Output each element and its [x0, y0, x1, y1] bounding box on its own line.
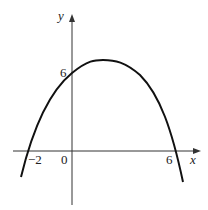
y-axis-label: y: [56, 8, 64, 23]
x-tick-0-label: 0: [61, 152, 68, 167]
x-axis-label: x: [189, 152, 196, 167]
y-tick-6-label: 6: [60, 65, 67, 80]
x-tick-6-label: 6: [166, 152, 173, 167]
x-tick-neg2-label: −2: [28, 152, 42, 167]
y-axis-arrow-icon: [69, 14, 75, 22]
parabola-curve: [21, 60, 183, 182]
parabola-graph: y 6 −2 0 6 x: [0, 0, 208, 210]
